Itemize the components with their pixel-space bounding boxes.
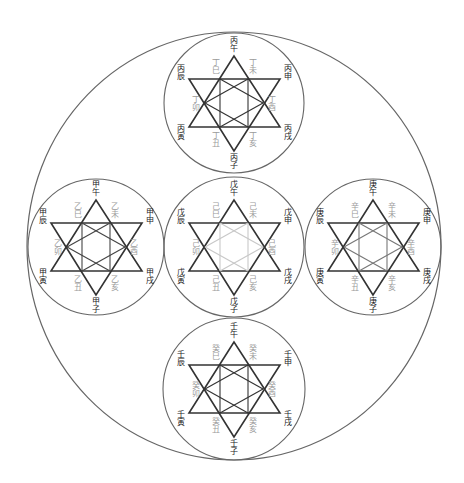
top-inner-label-upper-right: 丁未 [249, 59, 258, 75]
bottom-inner-label-upper-right: 癸未 [249, 345, 258, 361]
bottom-outer-label-upper-left: 壬辰 [177, 351, 186, 367]
right-inner-label-upper-left: 辛巳 [351, 203, 360, 219]
left-outer-label-lower-left: 甲寅 [39, 269, 48, 285]
left-inner-label-right: 乙酉 [130, 240, 139, 256]
bottom-star-down-triangle [189, 365, 280, 437]
center-star-down-triangle [189, 223, 280, 295]
right-inner-label-left: 辛卯 [331, 240, 340, 256]
outer-circle [27, 32, 441, 460]
left-outer-label-upper-left: 甲辰 [39, 209, 48, 225]
left-outer-label-upper-right: 甲申 [146, 209, 155, 225]
top-inner-label-lower-right: 丁亥 [249, 132, 258, 148]
diagram-graphics [0, 0, 464, 483]
center-inner-label-upper-right: 己未 [249, 203, 258, 219]
right-outer-label-lower-left: 庚寅 [316, 269, 325, 285]
bottom-inner-label-right: 癸酉 [268, 382, 277, 398]
center-outer-label-top: 戊午 [230, 181, 239, 197]
left-star-down-triangle [51, 223, 142, 295]
left-outer-label-lower-right: 甲戌 [146, 269, 155, 285]
bottom-inner-label-lower-left: 癸丑 [212, 418, 221, 434]
left-inner-label-lower-left: 乙丑 [74, 276, 83, 292]
center-inner-label-lower-left: 己丑 [212, 276, 221, 292]
right-outer-label-lower-right: 庚戌 [423, 269, 432, 285]
left-inner-label-left: 乙卯 [54, 240, 63, 256]
bottom-outer-label-bottom: 壬子 [230, 440, 239, 456]
top-outer-label-upper-right: 丙申 [284, 65, 293, 81]
bottom-star-up-triangle [189, 342, 280, 413]
right-outer-label-upper-right: 庚申 [423, 209, 432, 225]
left-inner-label-upper-left: 乙巳 [74, 203, 83, 219]
center-outer-label-bottom: 戊子 [230, 298, 239, 314]
bottom-inner-label-lower-right: 癸亥 [249, 418, 258, 434]
right-inner-label-upper-right: 辛未 [388, 203, 397, 219]
right-inner-label-right: 辛酉 [407, 240, 416, 256]
left-outer-label-bottom: 甲子 [92, 298, 101, 314]
right-outer-label-top: 庚午 [369, 181, 378, 197]
top-outer-label-lower-left: 丙寅 [177, 125, 186, 141]
right-star-up-triangle [328, 200, 419, 271]
right-outer-label-bottom: 庚子 [369, 298, 378, 314]
center-inner-label-lower-right: 己亥 [249, 276, 258, 292]
left-outer-label-top: 甲午 [92, 181, 101, 197]
center-inner-label-upper-left: 己巳 [212, 203, 221, 219]
right-star-down-triangle [328, 223, 419, 295]
center-star-up-triangle [189, 200, 280, 271]
right-outer-label-upper-left: 庚辰 [316, 209, 325, 225]
center-inner-label-right: 己酉 [268, 240, 277, 256]
left-inner-label-lower-right: 乙亥 [111, 276, 120, 292]
top-inner-label-right: 丁酉 [268, 96, 277, 112]
top-star-down-triangle [189, 79, 280, 151]
hexagram-diagram: 丙午丙子丙辰丙申丙寅丙戌丁巳丁未丁卯丁酉丁丑丁亥甲午甲子甲辰甲申甲寅甲戌乙巳乙未… [0, 0, 464, 483]
top-outer-label-upper-left: 丙辰 [177, 65, 186, 81]
left-star-up-triangle [51, 200, 142, 271]
center-outer-label-upper-right: 戊申 [284, 209, 293, 225]
top-inner-label-left: 丁卯 [192, 96, 201, 112]
bottom-inner-label-upper-left: 癸巳 [212, 345, 221, 361]
center-outer-label-lower-right: 戊戌 [284, 269, 293, 285]
top-inner-label-upper-left: 丁巳 [212, 59, 221, 75]
left-inner-label-upper-right: 乙未 [111, 203, 120, 219]
right-inner-label-lower-left: 辛丑 [351, 276, 360, 292]
top-inner-label-lower-left: 丁丑 [212, 132, 221, 148]
bottom-outer-label-lower-left: 壬寅 [177, 411, 186, 427]
top-outer-label-lower-right: 丙戌 [284, 125, 293, 141]
center-inner-label-left: 己卯 [192, 240, 201, 256]
center-outer-label-upper-left: 戊辰 [177, 209, 186, 225]
top-outer-label-top: 丙午 [230, 37, 239, 53]
right-inner-label-lower-right: 辛亥 [388, 276, 397, 292]
center-outer-label-lower-left: 戊寅 [177, 269, 186, 285]
bottom-outer-label-upper-right: 壬申 [284, 351, 293, 367]
top-outer-label-bottom: 丙子 [230, 154, 239, 170]
bottom-inner-label-left: 癸卯 [192, 382, 201, 398]
bottom-outer-label-lower-right: 壬戌 [284, 411, 293, 427]
top-star-up-triangle [189, 56, 280, 127]
bottom-outer-label-top: 壬午 [230, 323, 239, 339]
